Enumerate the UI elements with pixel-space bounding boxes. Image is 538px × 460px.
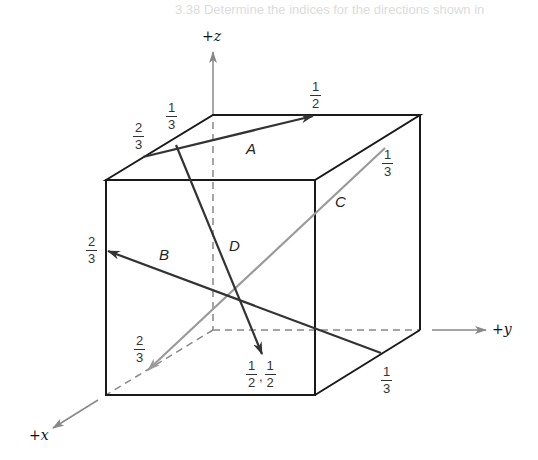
x-axis xyxy=(53,400,98,428)
hidden-edges xyxy=(106,122,420,395)
fraction-b-end: 23 xyxy=(86,235,97,266)
fraction-c-start: 13 xyxy=(382,148,393,179)
vector-d-label: D xyxy=(229,237,240,254)
vector-a-label: A xyxy=(246,140,256,157)
fraction-a-start-x: 23 xyxy=(133,121,144,152)
fraction-a-start-y: 13 xyxy=(166,101,177,132)
fraction-c-end: 23 xyxy=(134,334,145,365)
fraction-d-end: 12 , 12 xyxy=(246,359,276,390)
vector-b-label: B xyxy=(159,246,169,263)
vector-d xyxy=(176,145,262,354)
vector-c xyxy=(148,148,385,370)
vector-b xyxy=(108,251,381,353)
fraction-b-start: 13 xyxy=(381,365,392,396)
fraction-a-end: 12 xyxy=(310,80,321,111)
cube-edges xyxy=(106,115,420,395)
z-axis-label: +z xyxy=(202,28,221,44)
x-axis-label: +x xyxy=(29,427,49,443)
vector-c-label: C xyxy=(335,193,346,210)
y-axis-label: +y xyxy=(492,321,512,337)
cubic-unit-cell-diagram xyxy=(0,0,538,460)
